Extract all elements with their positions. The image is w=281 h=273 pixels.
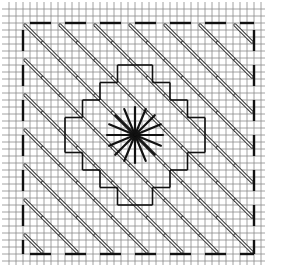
stitch-diagram: [0, 0, 281, 273]
center-star-eyelet: [107, 107, 163, 163]
